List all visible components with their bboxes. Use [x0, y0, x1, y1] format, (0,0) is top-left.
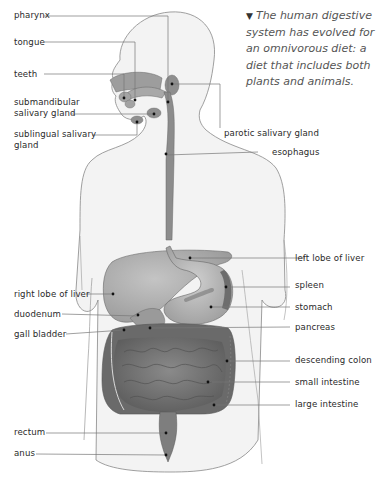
caption-text: The human digestive system has evolved f…	[246, 9, 374, 88]
label-parotic: parotic salivary gland	[224, 128, 319, 138]
label-esophagus: esophagus	[272, 147, 319, 157]
caption: ▼The human digestive system has evolved …	[246, 8, 382, 91]
small-intestine	[114, 337, 226, 412]
label-submandibular-1: submandibular	[14, 97, 80, 107]
triangle-marker-icon: ▼	[246, 11, 253, 21]
label-spleen: spleen	[295, 280, 324, 290]
label-descending-colon: descending colon	[295, 355, 372, 365]
label-small-intestine: small intestine	[295, 377, 360, 387]
label-rectum: rectum	[14, 427, 45, 437]
label-sublingual-1: sublingual salivary	[14, 129, 96, 139]
label-pharynx: pharynx	[14, 10, 50, 20]
label-tongue: tongue	[14, 37, 45, 47]
label-sublingual-2: gland	[14, 140, 39, 150]
label-right-liver: right lobe of liver	[14, 289, 90, 299]
label-anus: anus	[14, 448, 35, 458]
label-large-intestine: large intestine	[295, 399, 358, 409]
label-gall-bladder: gall bladder	[14, 329, 66, 339]
label-submandibular-2: salivary gland	[14, 108, 76, 118]
label-stomach: stomach	[295, 302, 333, 312]
label-teeth: teeth	[14, 69, 37, 79]
label-left-liver: left lobe of liver	[295, 253, 364, 263]
label-duodenum: duodenum	[14, 309, 61, 319]
label-pancreas: pancreas	[295, 322, 335, 332]
